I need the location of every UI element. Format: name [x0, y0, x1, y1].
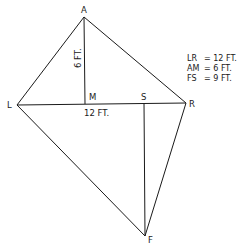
- point-label-l: L: [7, 100, 12, 110]
- segment-am: [84, 17, 85, 104]
- point-label-a: A: [81, 5, 87, 15]
- legend-row-am: AM = 6 FT.: [187, 64, 237, 74]
- point-label-r: R: [189, 99, 195, 109]
- segment-sf: [144, 103, 145, 236]
- point-label-f: F: [148, 235, 153, 245]
- legend-key: AM: [187, 64, 204, 74]
- legend-key: FS: [187, 74, 204, 84]
- legend-value: = 9 FT.: [204, 74, 232, 84]
- legend-key: LR: [187, 54, 204, 64]
- legend-value: = 6 FT.: [204, 64, 232, 74]
- segment-lf: [17, 105, 145, 236]
- segment-rf: [145, 103, 186, 236]
- point-label-m: M: [89, 92, 96, 102]
- dimension-label-am: 6 FT.: [73, 48, 83, 68]
- segment-lr: [17, 103, 186, 105]
- measurements-legend: LR = 12 FT. AM = 6 FT. FS = 9 FT.: [187, 54, 237, 84]
- legend-value: = 12 FT.: [204, 54, 237, 64]
- kite-diagram: A L R M S F 6 FT. 12 FT.: [0, 0, 238, 250]
- legend-row-lr: LR = 12 FT.: [187, 54, 237, 64]
- point-label-s: S: [141, 92, 146, 102]
- dimension-label-lr: 12 FT.: [84, 108, 109, 118]
- segment-ar: [84, 17, 186, 103]
- legend-row-fs: FS = 9 FT.: [187, 74, 237, 84]
